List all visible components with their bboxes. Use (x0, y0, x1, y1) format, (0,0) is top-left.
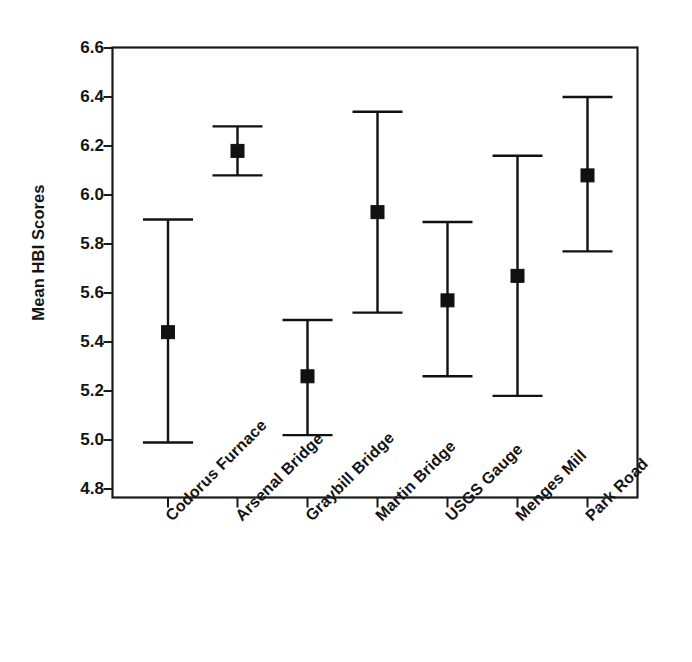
data-point-codorus-furnace (143, 220, 193, 443)
mean-marker (441, 294, 454, 307)
data-point-usgs-gauge (423, 222, 473, 376)
data-point-martin-bridge (353, 112, 403, 313)
mean-marker (581, 169, 594, 182)
mean-marker (301, 370, 314, 383)
data-point-graybill-bridge (283, 320, 333, 435)
mean-marker (162, 326, 175, 339)
mean-marker (371, 206, 384, 219)
plot-frame (113, 48, 638, 498)
chart-figure: Mean HBI Scores 6.66.46.26.05.85.65.45.2… (0, 0, 692, 662)
mean-marker (511, 269, 524, 282)
data-point-park-road (563, 97, 613, 251)
plot-area (0, 0, 692, 662)
data-point-menges-mill (493, 156, 543, 396)
mean-marker (231, 144, 244, 157)
data-point-arsenal-bridge (213, 126, 263, 175)
